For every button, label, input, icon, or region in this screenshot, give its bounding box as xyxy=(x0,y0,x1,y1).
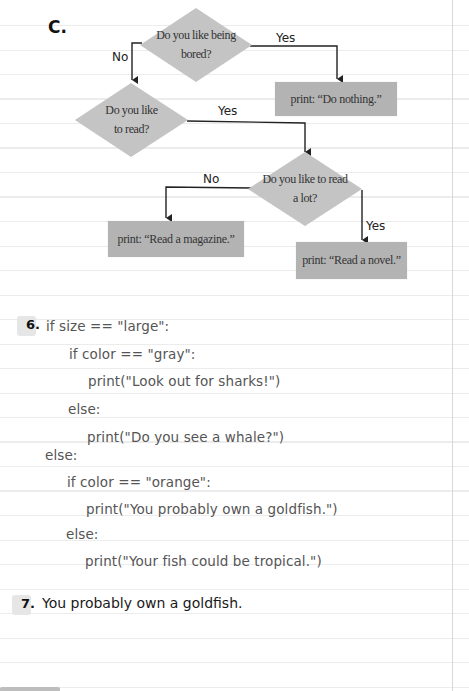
decision-text-line1: Do you like xyxy=(75,101,188,120)
edge-label-yes: Yes xyxy=(218,104,237,118)
output-read-novel: print: “Read a novel.” xyxy=(296,242,407,279)
code-line-1: if size == "large": xyxy=(46,318,169,334)
edge-label-yes: Yes xyxy=(276,31,295,45)
edge-label-no: No xyxy=(112,50,128,64)
edge-label-no: No xyxy=(203,172,219,186)
code-line-7: if color == "orange": xyxy=(67,474,211,490)
decision-text-line1: Do you like to read xyxy=(248,170,362,189)
code-line-6: else: xyxy=(45,447,77,463)
output-read-magazine: print: “Read a magazine.” xyxy=(108,221,244,257)
code-line-2: if color == "gray": xyxy=(69,346,196,362)
question-number-6: 6. xyxy=(26,317,40,332)
code-line-9: else: xyxy=(66,526,98,542)
code-line-5: print("Do you see a whale?") xyxy=(87,429,284,445)
decision-text-line2: bored? xyxy=(140,45,252,64)
code-line-3: print("Look out for sharks!") xyxy=(88,373,280,389)
edge-label-yes: Yes xyxy=(366,219,385,233)
decision-like-being-bored: Do you like being bored? xyxy=(140,8,252,82)
code-line-8: print("You probably own a goldfish.") xyxy=(86,501,338,517)
decision-text-line2: to read? xyxy=(75,120,188,139)
decision-text-line2: a lot? xyxy=(248,189,362,208)
decision-like-to-read-a-lot: Do you like to read a lot? xyxy=(248,152,362,226)
page-bottom-tab xyxy=(0,687,60,691)
decision-like-to-read: Do you like to read? xyxy=(75,83,188,157)
question-number-7: 7. xyxy=(21,596,35,611)
code-line-4: else: xyxy=(68,401,100,417)
code-line-10: print("Your fish could be tropical.") xyxy=(85,553,322,569)
decision-text-line1: Do you like being xyxy=(140,26,252,45)
output-do-nothing: print: “Do nothing.” xyxy=(275,82,397,116)
answer-text: You probably own a goldfish. xyxy=(42,595,243,611)
